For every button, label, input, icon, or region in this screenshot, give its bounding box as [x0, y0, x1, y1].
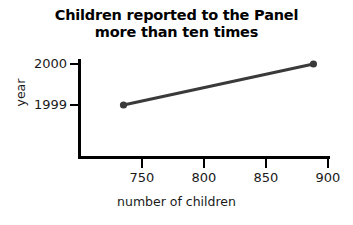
x-tick-label-750: 750: [112, 171, 172, 184]
x-tick-label-900: 900: [298, 171, 353, 184]
x-tick-label-850: 850: [236, 171, 296, 184]
y-tick-label-2000: 2000: [7, 57, 67, 70]
x-tick-mark-850: [265, 159, 267, 168]
y-axis-spine: [78, 59, 81, 159]
y-tick-mark-2000: [70, 63, 79, 65]
data-point-2000: [310, 60, 317, 67]
x-tick-label-800: 800: [174, 171, 234, 184]
data-point-1999: [120, 101, 127, 108]
line-chart: Children reported to the Panel more than…: [0, 0, 353, 225]
y-axis-title: year: [13, 85, 28, 107]
y-tick-mark-1999: [70, 104, 79, 106]
x-axis-title: number of children: [0, 194, 353, 209]
x-tick-mark-750: [141, 159, 143, 168]
data-line: [124, 64, 314, 105]
x-tick-mark-900: [327, 159, 329, 168]
x-tick-mark-800: [203, 159, 205, 168]
plot-area: [0, 0, 353, 225]
